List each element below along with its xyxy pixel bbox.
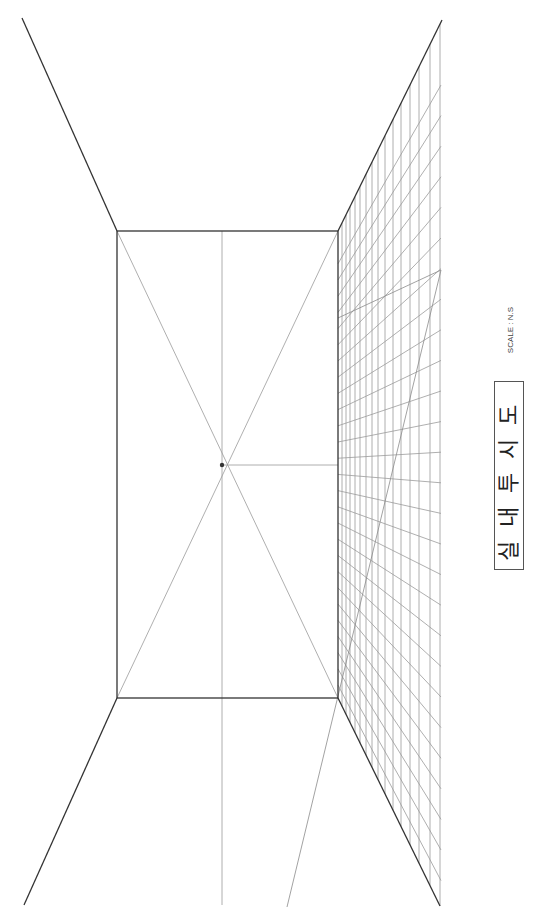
grid-radial-line: [338, 507, 441, 544]
grid-radial-line: [338, 491, 441, 514]
grid-radial-line: [338, 637, 441, 789]
grid-radial-line: [338, 452, 441, 458]
construction-lines: [117, 231, 441, 907]
grid-radial-line: [338, 85, 441, 264]
grid-radial-line: [338, 422, 441, 442]
drawing-title: 실내투시도: [498, 391, 520, 561]
edge-top-left: [22, 18, 117, 231]
grid-radial-line: [338, 330, 441, 394]
measuring-line: [287, 270, 441, 907]
grid-radial-line: [338, 360, 441, 409]
grid-radial-line: [338, 391, 441, 426]
grid-radial-line: [338, 620, 441, 758]
scale-label: SCALE : N.S: [506, 307, 515, 353]
vanishing-point: [220, 463, 224, 467]
edge-top-right: [338, 20, 442, 231]
room-outline: [22, 18, 442, 906]
grid-radial-line: [338, 588, 441, 697]
title-block: 실내투시도: [494, 381, 524, 570]
grid-radial-line: [338, 685, 441, 880]
edge-bottom-left: [24, 698, 117, 905]
floor-grid-verticals: [342, 24, 440, 906]
grid-radial-line: [338, 653, 441, 820]
grid-radial-line: [338, 146, 441, 296]
grid-radial-line: [338, 572, 441, 667]
grid-radial-line: [338, 604, 441, 728]
perspective-drawing: [0, 0, 540, 923]
grid-radial-line: [338, 669, 441, 850]
grid-radial-line: [338, 269, 441, 361]
edge-bottom-right: [338, 698, 440, 906]
